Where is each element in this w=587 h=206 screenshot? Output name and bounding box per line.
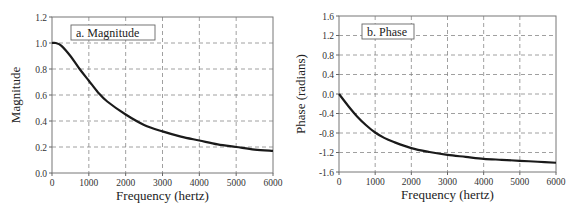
x-tick-label: 4000 [190, 178, 209, 188]
y-tick-label: 0.0 [35, 169, 47, 179]
y-tick-label: -0.4 [319, 109, 334, 119]
y-tick-label: 1.2 [322, 31, 334, 41]
x-tick-label: 1000 [79, 178, 98, 188]
y-tick-label: 0.6 [35, 91, 47, 101]
y-tick-label: 1.0 [35, 39, 47, 49]
panel-label: a. Magnitude [76, 26, 139, 40]
x-tick-label: 4000 [474, 177, 493, 187]
y-tick-label: 0.2 [35, 143, 47, 153]
panel-label-box: a. Magnitude [71, 25, 155, 40]
x-tick-label: 5000 [227, 178, 246, 188]
y-tick-label: 0.4 [35, 117, 47, 127]
y-tick-label: 0.8 [35, 65, 47, 75]
y-axis-ticks: 0.00.20.40.60.81.01.2 [35, 13, 52, 179]
panel-label: b. Phase [367, 25, 407, 39]
y-axis-label: Phase (radians) [293, 54, 308, 134]
y-tick-label: 0.0 [322, 90, 334, 100]
y-tick-label: -1.6 [319, 168, 334, 178]
y-tick-label: 0.4 [322, 70, 334, 80]
x-axis-label: Frequency (hertz) [401, 187, 494, 202]
x-axis-ticks: 0100020003000400050006000 [50, 173, 283, 188]
x-axis-label: Frequency (hertz) [116, 188, 209, 203]
x-tick-label: 2000 [402, 177, 421, 187]
y-tick-label: -0.8 [319, 129, 334, 139]
y-tick-label: 1.6 [322, 12, 334, 22]
magnitude-chart: 01000200030004000500060000.00.20.40.60.8… [8, 13, 283, 204]
x-tick-label: 6000 [547, 177, 566, 187]
phase-chart: 0100020003000400050006000-1.6-1.2-0.8-0.… [293, 12, 566, 203]
x-tick-label: 5000 [510, 177, 529, 187]
x-axis-ticks: 0100020003000400050006000 [337, 172, 566, 187]
y-axis-ticks: -1.6-1.2-0.8-0.40.00.40.81.21.6 [319, 12, 339, 178]
y-tick-label: 0.8 [322, 51, 334, 61]
x-tick-label: 6000 [264, 178, 283, 188]
y-tick-label: -1.2 [319, 148, 334, 158]
figure-canvas: 01000200030004000500060000.00.20.40.60.8… [0, 0, 587, 206]
panel-label-box: b. Phase [362, 24, 414, 39]
x-tick-label: 2000 [116, 178, 135, 188]
y-tick-label: 1.2 [35, 13, 47, 23]
x-tick-label: 3000 [153, 178, 172, 188]
x-tick-label: 0 [50, 178, 55, 188]
x-tick-label: 3000 [438, 177, 457, 187]
y-axis-label: Magnitude [8, 67, 23, 124]
x-tick-label: 0 [337, 177, 342, 187]
x-tick-label: 1000 [366, 177, 385, 187]
